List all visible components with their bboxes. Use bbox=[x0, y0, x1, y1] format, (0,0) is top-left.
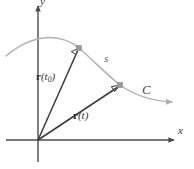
vector-label-r-t0: r(t0) bbox=[36, 71, 55, 82]
vector-label-r-t-close: ) bbox=[85, 109, 89, 121]
vector-label-r-t0-close: ) bbox=[51, 70, 55, 82]
y-axis-label: y bbox=[40, 0, 45, 7]
curve-label-c: C bbox=[142, 83, 151, 96]
vector-curve-figure: r(t0) r(t) s C x y bbox=[0, 0, 194, 169]
vector-label-r-t0-sub: 0 bbox=[48, 75, 52, 84]
vector-label-r-t: r(t) bbox=[73, 110, 88, 121]
point-t bbox=[118, 83, 123, 88]
arc-length-label-s: s bbox=[104, 53, 108, 64]
point-t0 bbox=[77, 46, 82, 51]
figure-canvas bbox=[0, 0, 194, 169]
x-axis-label: x bbox=[178, 125, 183, 136]
